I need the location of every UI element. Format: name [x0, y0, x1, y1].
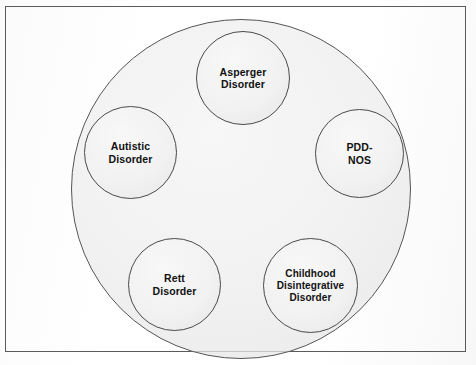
subtype-label-pdd-nos: PDD- NOS — [342, 141, 376, 166]
subtype-label-rett: Rett Disorder — [149, 272, 201, 297]
subtype-circle-autistic[interactable]: Autistic Disorder — [84, 106, 177, 199]
figure-border-frame: Asperger Disorder PDD- NOS Autistic Diso… — [5, 6, 466, 352]
subtype-label-asperger: Asperger Disorder — [216, 66, 271, 91]
subtype-circle-childhood-disintegrative[interactable]: Childhood Disintegrative Disorder — [263, 238, 358, 333]
figure-root: Asperger Disorder PDD- NOS Autistic Diso… — [0, 0, 476, 365]
subtype-label-autistic: Autistic Disorder — [105, 140, 157, 165]
subtype-circle-rett[interactable]: Rett Disorder — [128, 238, 221, 331]
subtype-label-childhood-disintegrative: Childhood Disintegrative Disorder — [273, 268, 349, 304]
subtype-circle-pdd-nos[interactable]: PDD- NOS — [315, 109, 404, 198]
subtype-circle-asperger[interactable]: Asperger Disorder — [196, 31, 290, 125]
